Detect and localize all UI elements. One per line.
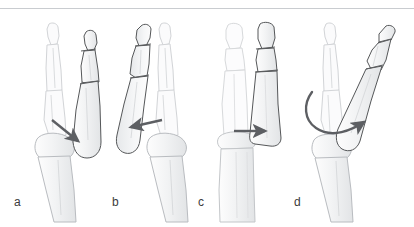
- panel-label-c: c: [198, 196, 204, 208]
- panel-label-d: d: [294, 196, 301, 208]
- illustration-canvas: [0, 0, 414, 227]
- panel-label-b: b: [112, 196, 119, 208]
- panel-b-group: [116, 23, 188, 222]
- panel-b-displaced-bones: [116, 24, 151, 153]
- panel-c-group: [218, 22, 281, 222]
- panel-a-group: [35, 23, 101, 222]
- figure-root: a b c d: [0, 0, 414, 227]
- panel-a-metacarpal: [35, 133, 76, 222]
- panel-label-a: a: [14, 196, 21, 208]
- panel-d-group: [306, 23, 395, 222]
- panel-b-metacarpal: [147, 133, 188, 222]
